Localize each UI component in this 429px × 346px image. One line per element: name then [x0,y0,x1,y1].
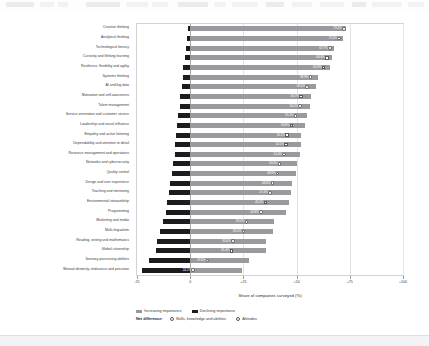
bar-value-label: 39.0% [137,229,241,234]
x-axis: -250+25+50+75+100 [136,276,404,292]
net-difference-marker [290,124,294,128]
y-axis-label: Programming [108,209,129,214]
bar-value-label: 35.4% [137,239,231,244]
y-axis-label: Resource management and operations [68,151,129,156]
net-difference-marker [328,46,332,50]
bar-value-label: 65.9% [137,65,322,70]
legend-item-attitudes[interactable]: Attitudes [236,317,257,321]
y-axis-label: Reading, writing and mathematics [76,238,129,243]
legend-item-skills[interactable]: Skills, knowledge and abilities [170,317,226,321]
net-difference-marker [309,75,313,79]
bar-value-label: 56.4% [137,104,298,109]
y-axis-label: Curiosity and lifelong learning [83,54,129,59]
bar-value-label: 44.8% [137,210,259,215]
bar-value-label: 39.4% [137,219,244,224]
net-difference-marker [259,210,263,214]
y-axis-label: Networks and cybersecurity [86,160,129,165]
net-difference-marker [230,249,234,253]
y-axis-label: Analytical thinking [101,35,129,40]
bar-value-label: 50.0% [137,161,278,166]
y-axis-label: AI and big data [105,83,129,88]
legend-label-increasing: Increasing importance [144,309,181,313]
legend-label-attitudes: Attitudes [242,317,257,321]
bar-value-label: 35.4% [137,248,229,253]
bar-value-label: 27.6% [137,258,205,263]
y-axis-label: Environmental stewardship [87,199,129,204]
header-placeholder-bar [40,2,54,7]
x-tick-label: +50 [294,280,300,284]
bar-value-label: 66.8% [137,55,325,60]
header-placeholder-bar [178,2,208,7]
circle-marker-attitudes-icon [236,317,240,321]
net-difference-marker [298,104,302,108]
bar-value-label: 46.2% [137,200,264,205]
zero-line [190,24,191,275]
y-axis-label: Talent management [98,103,129,108]
legend-label-skills: Skills, knowledge and abilities [176,317,226,321]
header-placeholder-bar [372,2,402,7]
bar-value-label: 59.0% [137,84,305,89]
bar-value-label: 52.2% [137,133,285,138]
y-axis-label: Leadership and social influence [80,122,129,127]
legend-row-net: Net difference: Skills, knowledge and ab… [136,317,416,321]
header-placeholder-bar [408,2,424,7]
header-placeholder-bar [320,2,344,7]
y-axis-label: Teaching and mentoring [92,189,129,194]
x-tick-label: +25 [240,280,246,284]
y-axis-label: Systems thinking [103,74,129,79]
x-tick [243,276,244,279]
bar-value-label: 55.1% [137,113,294,118]
bar-value-label: 47.4% [137,190,268,195]
bar-value-label: 48.0% [137,181,271,186]
net-difference-marker [284,143,288,147]
net-difference-marker [285,133,289,137]
x-axis-title: Share of companies surveyed (%) [136,293,404,298]
header-placeholder-bar [266,2,284,7]
y-axis-category-labels: Creative thinkingAnalytical thinkingTech… [0,23,133,276]
y-axis-label: Quality control [107,170,129,175]
bar-value-label: 52.1% [137,142,284,147]
gridline-75 [350,24,351,275]
x-tick-label: -25 [134,280,139,284]
y-axis-label: Design and user experience [85,180,129,185]
bar-value-label: 71.6% [137,36,337,41]
plot-area: 73.2%71.6%67.7%66.8%65.9%59.9%59.0%56.7%… [136,23,404,276]
header-placeholder-bar [86,2,120,7]
page-footer-strip [0,335,429,346]
bar-value-label: 53.8% [137,123,289,128]
legend-item-increasing[interactable]: Increasing importance [136,309,182,313]
bar-value-label: 49.8% [137,171,276,176]
header-placeholder-bar [352,2,366,7]
y-axis-label: Dependability and attention to detail [73,141,129,146]
y-axis-label: Service orientation and customer service [66,112,129,117]
y-axis-label: Motivation and self-awareness [82,93,129,98]
legend-item-declining[interactable]: Declining importance [192,309,236,313]
gridline-100 [403,24,404,275]
page-header-strip [0,0,429,11]
net-difference-marker [342,27,346,31]
net-difference-marker [305,85,309,89]
y-axis-label: Resilience, flexibility and agility [81,64,129,69]
y-axis-label: Creative thinking [103,25,129,30]
header-placeholder-bar [152,2,168,7]
y-axis-label: Marketing and media [96,218,129,223]
bar-value-label: 67.7% [137,46,328,51]
circle-marker-icon [170,317,174,321]
bar-value-label: 73.2% [137,26,342,31]
legend-label-net-prefix: Net difference: [136,317,163,321]
x-tick [297,276,298,279]
y-axis-label: Manual dexterity, endurance and precisio… [63,267,129,272]
bar-value-label: 24.2% [137,268,191,273]
header-placeholder-bar [126,2,148,7]
gridline-50 [297,24,298,275]
x-tick-label: +75 [347,280,353,284]
net-difference-marker [325,56,329,60]
net-difference-marker [264,201,268,205]
net-difference-marker [191,268,195,272]
x-tick [137,276,138,279]
bar-increasing [190,268,241,273]
legend-row-bars: Increasing importance Declining importan… [136,309,416,313]
net-difference-marker [231,239,235,243]
y-axis-label: Technological literacy [96,45,129,50]
net-difference-marker [299,95,303,99]
